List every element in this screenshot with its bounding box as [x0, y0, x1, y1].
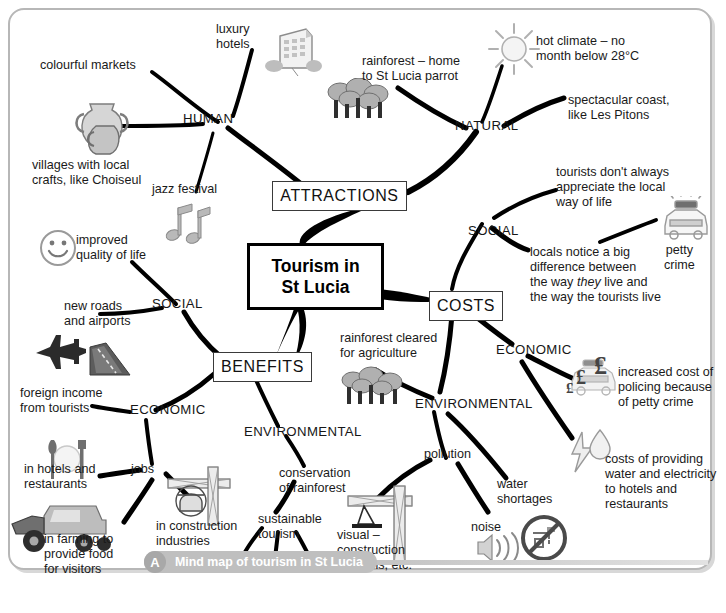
airplane-road-icon	[34, 325, 134, 381]
leaf-conservation-rainforest: conservation of rainforest	[279, 466, 350, 496]
leaf-villages-crafts: villages with local crafts, like Choiseu…	[32, 158, 141, 188]
leaf-locals-notice: locals notice a big difference between t…	[530, 245, 710, 304]
branch-label-benefits: BENEFITS	[221, 358, 304, 376]
leaf-spectacular-coast: spectacular coast, like Les Pitons	[568, 93, 670, 123]
leaf-sustainable-tourism: sustainable tourism	[258, 512, 322, 542]
no-water-tap-icon	[519, 513, 569, 563]
locals-notice-emphasis: they	[577, 275, 601, 289]
category-environmental-costs: ENVIRONMENTAL	[415, 396, 533, 411]
svg-text:£: £	[594, 352, 607, 380]
leaf-water-shortages: water shortages	[497, 477, 552, 507]
category-human: HUMAN	[183, 111, 233, 126]
branch-label-costs: COSTS	[437, 297, 495, 315]
music-notes-icon	[164, 202, 212, 246]
pottery-vase-icon	[70, 96, 136, 158]
leaf-water-electricity: costs of providing water and electricity…	[605, 452, 716, 511]
center-topic-box: Tourism in St Lucia	[247, 243, 384, 310]
leaf-jazz-festival: jazz festival	[152, 182, 217, 197]
mind-map-figure: £ £ £ Tourism in St Lucia ATTRACTIONS	[0, 0, 726, 613]
leaf-farming-food: in farming to provide food for visitors	[44, 532, 113, 577]
leaf-noise: noise	[471, 520, 501, 535]
leaf-construction-industries: in construction industries	[156, 519, 237, 549]
caption-tail	[330, 560, 708, 565]
leaf-improved-quality: improved quality of life	[76, 233, 146, 263]
branch-box-attractions: ATTRACTIONS	[272, 181, 407, 211]
pound-police-car-icon: £ £ £	[566, 352, 624, 404]
leaf-tourists-appreciate: tourists don't always appreciate the loc…	[556, 165, 669, 210]
trees-cleared-icon	[340, 365, 410, 411]
leaf-hot-climate: hot climate – no month below 28°C	[536, 34, 639, 64]
leaf-pollution: pollution	[424, 447, 471, 462]
svg-text:£: £	[566, 380, 574, 396]
center-topic-line1: Tourism in	[271, 256, 359, 277]
trees-rainforest-icon	[326, 78, 392, 124]
leaf-colourful-markets: colourful markets	[40, 58, 136, 73]
category-environmental-benefits: ENVIRONMENTAL	[244, 424, 362, 439]
leaf-new-roads: new roads and airports	[64, 299, 131, 329]
category-social-benefits: SOCIAL	[152, 296, 203, 311]
caption-badge: A	[144, 551, 166, 573]
branch-box-costs: COSTS	[429, 291, 503, 321]
category-economic-costs: ECONOMIC	[496, 342, 572, 357]
leaf-increased-policing: increased cost of policing because of pe…	[618, 365, 713, 410]
leaf-jobs: jobs	[131, 462, 154, 477]
smiley-face-icon	[38, 228, 78, 268]
branch-box-benefits: BENEFITS	[213, 352, 312, 382]
branch-label-attractions: ATTRACTIONS	[280, 187, 398, 205]
leaf-rainforest-parrot: rainforest – home to St Lucia parrot	[362, 54, 460, 84]
center-topic-line2: St Lucia	[281, 277, 349, 298]
category-social-costs: SOCIAL	[468, 223, 519, 238]
leaf-hotels-restaurants: in hotels and restaurants	[24, 462, 95, 492]
figure-caption: A Mind map of tourism in St Lucia	[144, 551, 377, 573]
hotel-building-icon	[262, 24, 322, 76]
leaf-foreign-income: foreign income from tourists	[20, 386, 103, 416]
leaf-rainforest-cleared: rainforest cleared for agriculture	[340, 331, 437, 361]
leaf-luxury-hotels: luxury hotels	[216, 22, 250, 52]
category-economic-benefits: ECONOMIC	[130, 402, 206, 417]
category-natural: NATURAL	[455, 118, 518, 133]
caption-text: Mind map of tourism in St Lucia	[175, 555, 363, 569]
sun-icon	[487, 22, 541, 76]
svg-text:£: £	[576, 366, 586, 388]
